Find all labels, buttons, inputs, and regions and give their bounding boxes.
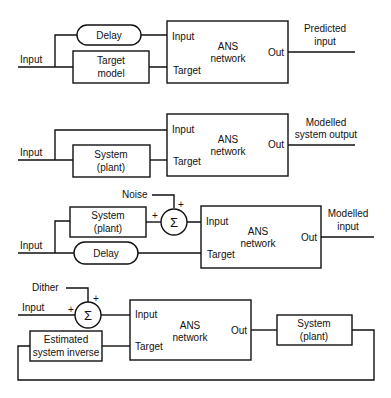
dither-wire (66, 288, 88, 302)
svg-text:Input: Input (172, 31, 194, 42)
svg-text:Input: Input (20, 147, 42, 158)
svg-text:Dither: Dither (32, 282, 59, 293)
svg-text:Modelled: Modelled (306, 117, 347, 128)
diagram-prediction: Input Delay Target model Input Target AN… (18, 21, 355, 83)
svg-text:model: model (97, 68, 124, 79)
svg-text:Input: Input (20, 240, 42, 251)
svg-text:System: System (297, 318, 330, 329)
svg-text:system output: system output (295, 129, 357, 140)
svg-text:+: + (152, 210, 158, 221)
svg-text:ANS: ANS (218, 41, 239, 52)
svg-text:Out: Out (301, 232, 317, 243)
svg-text:Σ: Σ (84, 308, 92, 323)
svg-text:+: + (93, 293, 99, 304)
svg-text:Target: Target (173, 65, 201, 76)
svg-text:network: network (240, 238, 276, 249)
svg-text:network: network (172, 332, 208, 343)
svg-text:ANS: ANS (218, 134, 239, 145)
svg-text:Target: Target (135, 341, 163, 352)
svg-text:System: System (94, 149, 127, 160)
svg-text:Out: Out (268, 47, 284, 58)
svg-text:network: network (210, 146, 246, 157)
svg-text:Delay: Delay (93, 248, 119, 259)
svg-text:Σ: Σ (170, 215, 178, 230)
svg-text:Target: Target (207, 249, 235, 260)
diagram-noise-cancellation: Input System (plant) Delay Noise Σ + + I… (18, 189, 374, 268)
svg-text:ANS: ANS (248, 226, 269, 237)
svg-text:(plant): (plant) (300, 331, 328, 342)
svg-text:Modelled: Modelled (328, 208, 369, 219)
svg-text:input: input (314, 36, 336, 47)
svg-text:+: + (68, 304, 74, 315)
svg-text:input: input (337, 221, 359, 232)
svg-text:network: network (210, 53, 246, 64)
svg-text:Target: Target (97, 55, 125, 66)
svg-text:(plant): (plant) (94, 223, 122, 234)
delay-label: Delay (96, 30, 122, 41)
svg-text:Out: Out (231, 325, 247, 336)
svg-text:Estimated: Estimated (44, 334, 88, 345)
svg-text:(plant): (plant) (97, 162, 125, 173)
svg-text:Input: Input (135, 309, 157, 320)
svg-text:Input: Input (172, 124, 194, 135)
diagram-system-identification: Input System (plant) Input Target ANS ne… (18, 114, 357, 177)
svg-text:Predicted: Predicted (304, 23, 346, 34)
svg-text:ANS: ANS (180, 320, 201, 331)
diagram-inverse-modelling: Dither Input Σ + + Estimated system inve… (18, 282, 374, 380)
noise-wire (152, 195, 174, 208)
svg-text:Out: Out (268, 139, 284, 150)
svg-text:System: System (91, 210, 124, 221)
svg-text:Target: Target (173, 156, 201, 167)
svg-text:Noise: Noise (122, 189, 148, 200)
svg-text:Input: Input (206, 216, 228, 227)
svg-text:system inverse: system inverse (33, 347, 100, 358)
svg-text:+: + (178, 199, 184, 210)
input-label: Input (20, 54, 42, 65)
svg-text:Input: Input (22, 302, 44, 313)
